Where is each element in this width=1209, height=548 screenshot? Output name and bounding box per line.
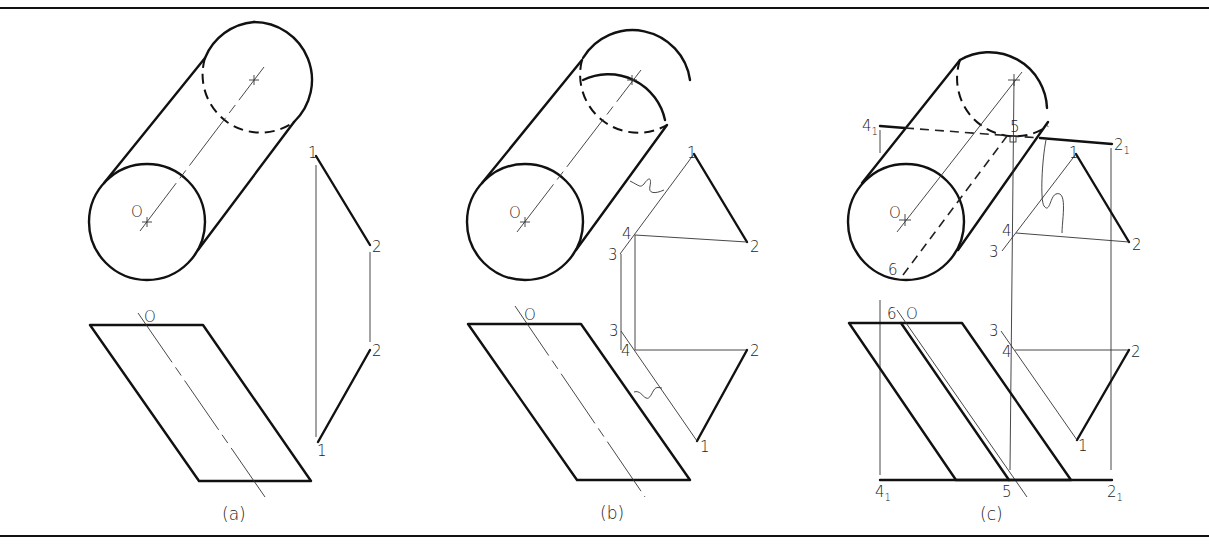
edge-3-1-front <box>1001 331 1077 440</box>
label-1-bottom: 1 <box>700 438 710 456</box>
cylinder-front-view <box>849 323 1071 480</box>
cylinder-top-view: O 6 <box>848 52 1048 280</box>
caption-a: (a) <box>222 504 246 524</box>
caption-c: (c) <box>980 504 1003 524</box>
perpendicular-5 <box>1010 80 1014 470</box>
line-1-2-top <box>694 154 747 242</box>
label-41-top: 41 <box>862 117 878 137</box>
label-2-top: 2 <box>750 238 760 256</box>
label-o-top: O <box>889 204 901 222</box>
clearance-marker-front <box>634 388 662 399</box>
label-3-top: 3 <box>608 246 618 264</box>
edge-3-1-front <box>621 331 697 441</box>
center-mark-back <box>249 75 259 85</box>
back-circle-visible-arc <box>254 22 312 122</box>
cylinder-limb-lower <box>198 122 294 250</box>
cylinder-axis-front <box>138 313 265 497</box>
label-4-bottom: 4 <box>1002 343 1012 361</box>
label-2-bottom: 2 <box>750 342 760 360</box>
label-2-top: 2 <box>372 238 382 256</box>
label-4-top: 4 <box>622 225 632 243</box>
label-o-bottom: O <box>906 305 918 323</box>
line-2-1-front <box>697 350 747 441</box>
cylinder-axis-front <box>897 310 1027 497</box>
cylinder-top-view: O <box>467 30 690 280</box>
clearance-marker <box>1042 140 1064 233</box>
label-6-bottom: 6 <box>887 305 897 323</box>
label-1-top: 1 <box>687 144 697 162</box>
label-o-top: O <box>509 204 521 222</box>
label-5-bottom: 5 <box>1002 483 1012 501</box>
line-1-2-top <box>316 156 370 245</box>
center-mark-front <box>142 217 152 227</box>
cylinder-front-view <box>468 324 690 480</box>
label-2-top: 2 <box>1132 236 1142 254</box>
label-2-bottom: 2 <box>372 342 382 360</box>
technical-drawing: O 1 2 O 2 1 (a) O <box>0 0 1209 548</box>
back-circle-hidden-arc <box>203 58 294 133</box>
element-6-5-front <box>901 323 1009 480</box>
label-3-bottom: 3 <box>989 322 999 340</box>
line-2-1-front <box>1077 350 1129 440</box>
back-circle-top-arc <box>583 30 690 80</box>
label-1-bottom: 1 <box>317 442 327 460</box>
panel-c: O 6 41 5 21 1 2 4 3 6 O 3 <box>848 52 1142 524</box>
label-5-top: 5 <box>1010 118 1020 136</box>
label-3-top: 3 <box>989 243 999 261</box>
back-circle-hidden-arc <box>957 60 1048 136</box>
back-circle-visible-arc-2 <box>205 22 254 58</box>
cylinder-top-view: O <box>89 22 312 280</box>
label-21-top: 21 <box>1114 136 1130 156</box>
panel-b: O 1 2 4 3 O 3 4 2 1 (b) <box>467 30 760 523</box>
caption-b: (b) <box>600 503 624 523</box>
clearance-marker-top <box>630 179 664 193</box>
line-2-4-top <box>1016 233 1129 242</box>
panel-a: O 1 2 O 2 1 (a) <box>89 22 382 524</box>
label-o-bottom: O <box>144 308 156 326</box>
label-1-top: 1 <box>308 144 318 162</box>
cylinder-axis-front <box>515 306 645 497</box>
line-2-4-top <box>635 235 747 242</box>
label-4-bottom: 4 <box>621 342 631 360</box>
label-o-top: O <box>131 203 143 221</box>
label-3-bottom: 3 <box>609 322 619 340</box>
label-2-bottom: 2 <box>1131 343 1141 361</box>
back-circle-visible-arc <box>960 52 1047 108</box>
label-41-bottom: 41 <box>875 483 891 503</box>
label-1-top: 1 <box>1069 144 1079 162</box>
line-1-2-front <box>318 350 370 442</box>
cylinder-axis <box>517 70 641 232</box>
front-circle <box>848 164 964 280</box>
label-1-bottom: 1 <box>1078 437 1088 455</box>
label-o-bottom: O <box>524 306 536 324</box>
label-4-top: 4 <box>1002 222 1012 240</box>
line-1-2-top <box>1076 154 1129 242</box>
edge-view-left-visible <box>880 126 905 128</box>
label-21-bottom: 21 <box>1107 483 1123 503</box>
label-6-top: 6 <box>888 261 898 279</box>
